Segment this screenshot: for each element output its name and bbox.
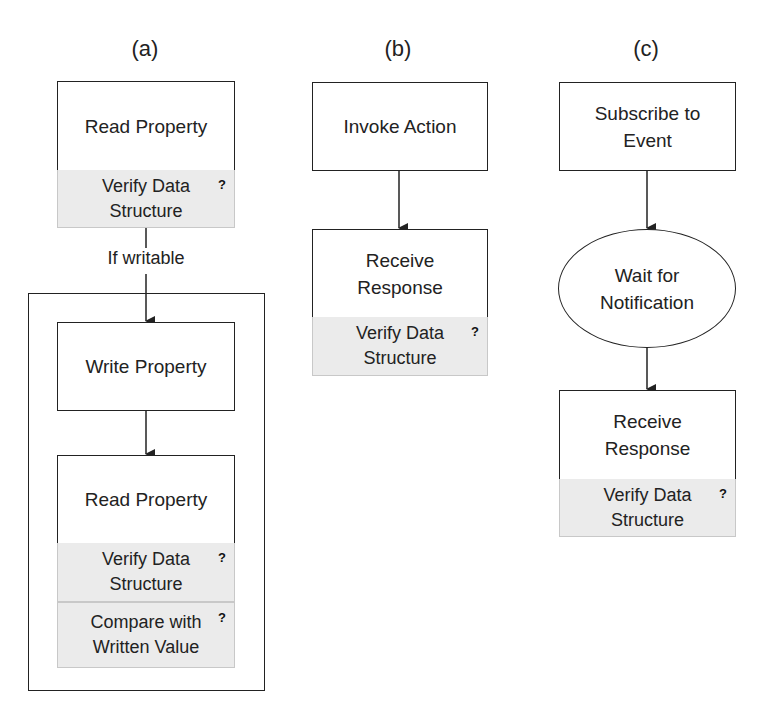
read-property-box: Read Property [57,81,235,171]
compare-written-value-band: Compare with Written Value ? [57,602,235,668]
question-mark-icon: ? [218,172,226,197]
read-property-label-2: Read Property [85,486,208,513]
verify-data-structure-band-b: Verify Data Structure ? [312,317,488,376]
subscribe-label: Subscribe to Event [595,100,701,154]
panel-label-b: (b) [368,36,428,62]
verify-data-structure-band-c: Verify Data Structure ? [559,479,736,537]
if-writable-condition: If writable [98,248,194,269]
write-property-label: Write Property [85,353,206,380]
panel-label-a: (a) [115,36,175,62]
verify-label: Verify Data Structure [102,547,190,597]
verify-label: Verify Data Structure [102,174,190,224]
receive-response-box-c: Receive Response [559,390,736,480]
verify-label: Verify Data Structure [356,321,444,371]
question-mark-icon: ? [218,605,226,630]
receive-response-box-b: Receive Response [312,229,488,318]
write-property-box: Write Property [57,322,235,411]
question-mark-icon: ? [719,481,727,506]
wait-notification-ellipse: Wait for Notification [558,229,736,348]
read-property-label: Read Property [85,113,208,140]
read-property-box-2: Read Property [57,455,235,544]
question-mark-icon: ? [471,319,479,344]
question-mark-icon: ? [218,545,226,570]
subscribe-event-box: Subscribe to Event [559,82,736,171]
panel-label-c: (c) [616,36,676,62]
verify-label: Verify Data Structure [603,483,691,533]
compare-label: Compare with Written Value [90,610,201,660]
receive-response-label: Receive Response [605,408,691,462]
verify-data-structure-band-a2: Verify Data Structure ? [57,543,235,602]
verify-data-structure-band-a1: Verify Data Structure ? [57,170,235,228]
invoke-action-label: Invoke Action [343,113,456,140]
receive-response-label: Receive Response [357,247,443,301]
wait-label: Wait for Notification [600,262,694,316]
invoke-action-box: Invoke Action [312,82,488,171]
